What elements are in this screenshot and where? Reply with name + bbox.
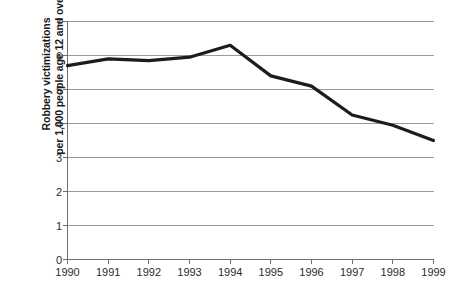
- x-tick-label-1991: 1991: [96, 266, 120, 278]
- axis-lines: [68, 22, 434, 260]
- y-tick-marks: [63, 22, 68, 260]
- data-series-line: [68, 45, 434, 140]
- x-tick-label-1992: 1992: [137, 266, 161, 278]
- x-axis-tick-labels: 1990199119921993199419951996199719981999: [0, 266, 453, 284]
- line-chart: Robbery victimizations per 1,000 people …: [0, 0, 453, 299]
- x-tick-label-1996: 1996: [299, 266, 323, 278]
- x-tick-label-1995: 1995: [259, 266, 283, 278]
- plot-area: [0, 0, 453, 299]
- x-tick-label-1998: 1998: [381, 266, 405, 278]
- x-tick-label-1994: 1994: [218, 266, 242, 278]
- x-tick-marks: [68, 260, 434, 265]
- x-tick-label-1999: 1999: [421, 266, 445, 278]
- x-tick-label-1997: 1997: [340, 266, 364, 278]
- x-tick-label-1990: 1990: [55, 266, 79, 278]
- gridlines: [68, 22, 434, 260]
- x-tick-label-1993: 1993: [177, 266, 201, 278]
